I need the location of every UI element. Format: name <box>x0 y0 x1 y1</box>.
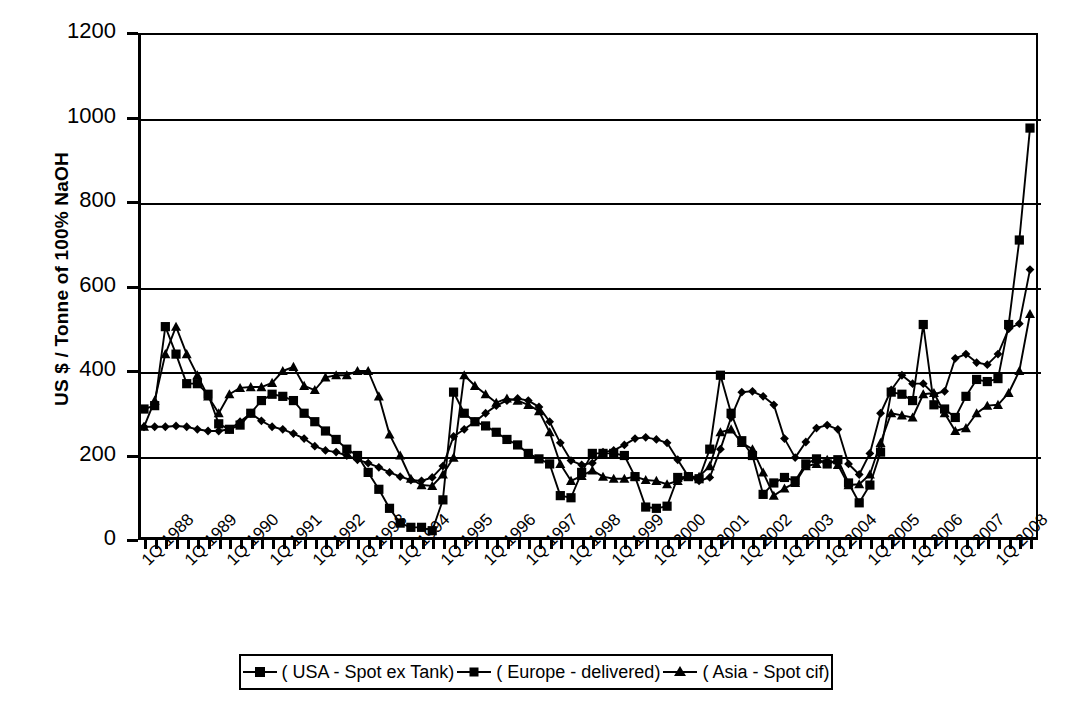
legend-entry[interactable]: ( Asia - Spot cif) <box>663 662 829 683</box>
gridline <box>141 288 1041 290</box>
square-marker-icon <box>243 665 277 679</box>
legend-entry[interactable]: ( USA - Spot ex Tank) <box>243 662 455 683</box>
legend-entry[interactable]: ( Europe - delivered) <box>457 662 660 683</box>
y-tick-mark <box>127 455 138 458</box>
gridline <box>141 203 1041 205</box>
triangle-marker-icon <box>663 665 697 679</box>
diamond-marker-icon <box>457 665 491 679</box>
gridline <box>141 457 1041 459</box>
legend-label: ( USA - Spot ex Tank) <box>282 662 455 683</box>
y-tick-label: 400 <box>0 358 116 380</box>
legend-label: ( Europe - delivered) <box>496 662 660 683</box>
gridline <box>141 372 1041 374</box>
y-tick-label: 600 <box>0 274 116 296</box>
legend: ( USA - Spot ex Tank)( Europe - delivere… <box>239 654 833 690</box>
y-tick-label: 1200 <box>0 20 116 42</box>
y-tick-label: 200 <box>0 443 116 465</box>
y-tick-mark <box>127 201 138 204</box>
legend-label: ( Asia - Spot cif) <box>702 662 829 683</box>
gridline <box>141 119 1041 121</box>
chart-root: US $ / Tonne of 100% NaOH 02004006008001… <box>0 0 1068 705</box>
y-tick-mark <box>127 370 138 373</box>
y-tick-label: 1000 <box>0 105 116 127</box>
y-tick-label: 0 <box>0 527 116 549</box>
y-tick-label: 800 <box>0 189 116 211</box>
y-tick-mark <box>127 539 138 542</box>
y-tick-mark <box>127 286 138 289</box>
plot-area <box>138 33 1038 540</box>
y-tick-mark <box>127 32 138 35</box>
y-tick-mark <box>127 117 138 120</box>
